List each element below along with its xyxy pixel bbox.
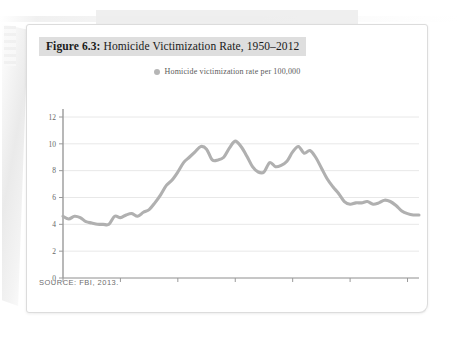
source-note: SOURCE: FBI, 2013.	[39, 278, 119, 287]
series-line-homicide-rate	[63, 141, 419, 225]
figure-card: Figure 6.3: Homicide Victimization Rate,…	[26, 24, 428, 313]
svg-text:2: 2	[52, 247, 56, 256]
gridlines	[63, 117, 419, 278]
svg-text:8: 8	[52, 166, 56, 175]
svg-text:10: 10	[49, 140, 57, 149]
figure-number: Figure 6.3:	[46, 40, 101, 52]
y-axis-labels: 024681012	[49, 113, 57, 283]
legend-label: Homicide victimization rate per 100,000	[165, 67, 301, 76]
chart-plot-area: 024681012 1950196019701980199020002010	[27, 83, 427, 283]
figure-title: Figure 6.3: Homicide Victimization Rate,…	[39, 37, 306, 56]
scan-artifact-band	[96, 10, 358, 25]
page-edge-texture	[4, 26, 16, 66]
chart-legend: Homicide victimization rate per 100,000	[27, 67, 427, 76]
figure-title-text: Homicide Victimization Rate, 1950–2012	[101, 40, 300, 52]
svg-text:6: 6	[52, 193, 56, 202]
svg-text:12: 12	[49, 113, 57, 122]
line-chart-svg: 024681012 1950196019701980199020002010	[27, 83, 427, 283]
series-dot-icon	[154, 69, 160, 75]
svg-text:4: 4	[52, 220, 56, 229]
